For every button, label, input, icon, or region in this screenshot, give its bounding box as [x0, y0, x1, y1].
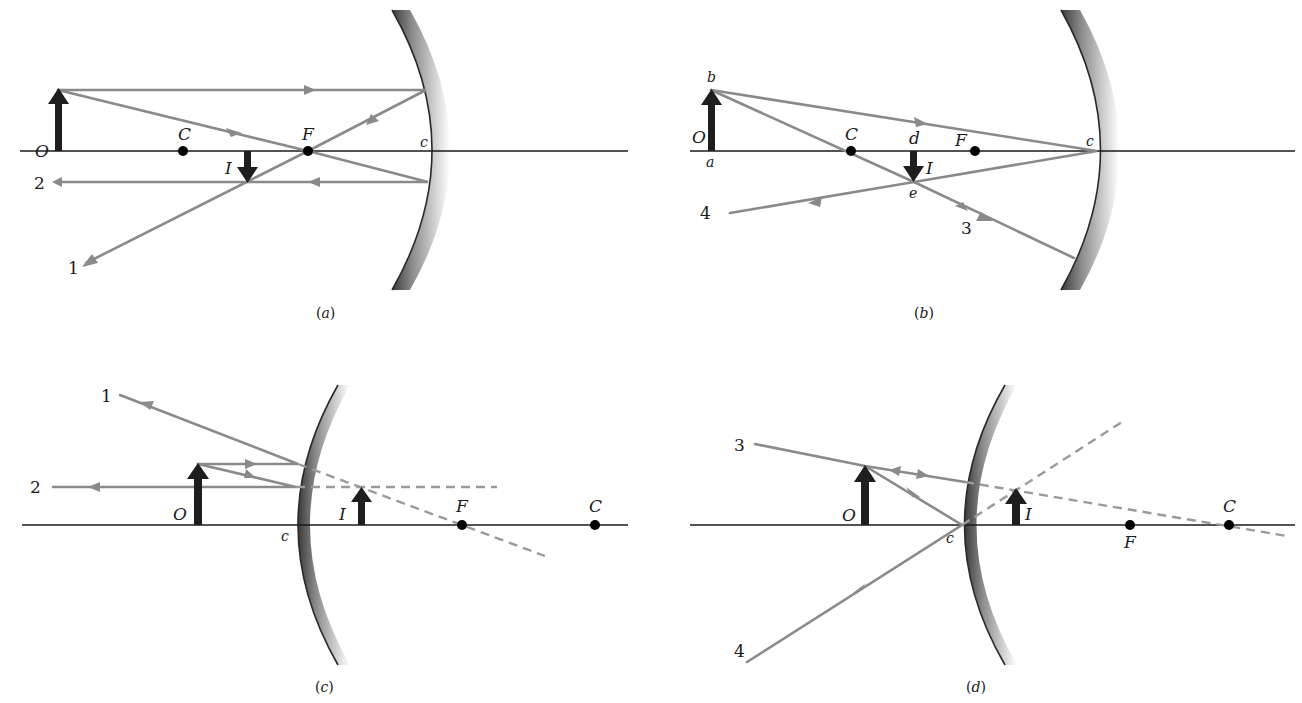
vertex-label: c [420, 134, 428, 150]
ray-label-4: 4 [700, 203, 711, 223]
ray-label-4: 4 [734, 641, 745, 661]
ray-direction-arrow [304, 85, 316, 95]
panel-caption: (b) [914, 305, 934, 321]
center-of-curvature-point [590, 520, 600, 530]
object-arrow-shaft [708, 103, 715, 151]
mirror-ray-diagram-figure: O C F c I 2 1 (a) O b a C d F c I [0, 0, 1302, 703]
image-arrow-head [237, 167, 258, 183]
panel-caption: (a) [316, 305, 335, 321]
ray-label-3: 3 [734, 435, 745, 455]
ray-direction-arrow [889, 466, 901, 476]
panel-b: O b a C d F c I e 4 3 (b) [690, 10, 1295, 321]
object-label: O [35, 141, 49, 161]
focus-label: F [455, 496, 469, 516]
ray-3 [711, 90, 1074, 258]
panel-a: O C F c I 2 1 (a) [20, 10, 628, 321]
ray-direction-arrow [82, 254, 98, 267]
ray-label-3: 3 [961, 218, 972, 238]
ray-direction-arrow [914, 117, 928, 127]
object-label: O [692, 127, 706, 147]
ray-direction-arrow [88, 482, 100, 492]
object-arrow-shaft [55, 102, 62, 151]
concave-mirror [392, 10, 450, 290]
ray-label-1: 1 [101, 386, 112, 406]
object-tip-label: b [707, 69, 716, 85]
focal-point [303, 146, 313, 156]
center-of-curvature-point [178, 146, 188, 156]
ray-4 [747, 466, 962, 662]
virtual-ray-extension [298, 464, 545, 556]
ray-direction-arrow [244, 469, 256, 478]
vertex-label: c [1086, 133, 1094, 149]
panel-c: 1 2 O c I F C (c) [22, 385, 628, 695]
center-label: C [845, 124, 858, 144]
focal-point [457, 520, 467, 530]
image-base-label: d [909, 128, 920, 148]
center-of-curvature-point [846, 146, 856, 156]
object-label: O [173, 504, 187, 524]
panel-caption: (d) [966, 679, 986, 695]
image-tip-label: e [909, 185, 917, 201]
object-arrow-shaft [861, 480, 869, 525]
image-label: I [224, 158, 232, 178]
image-arrow-shaft [1012, 502, 1020, 525]
image-arrow-head [1005, 488, 1027, 504]
focus-label: F [954, 130, 968, 150]
ray-direction-arrow [916, 469, 929, 479]
image-label: I [925, 158, 933, 178]
center-label: C [589, 496, 602, 516]
image-arrow-shaft [358, 500, 365, 525]
focus-label: F [301, 124, 315, 144]
object-base-label: a [706, 154, 714, 170]
panel-caption: (c) [315, 679, 334, 695]
ray-2 [53, 464, 296, 487]
center-of-curvature-point [1224, 520, 1234, 530]
focal-point [970, 146, 980, 156]
center-label: C [1223, 496, 1236, 516]
object-label: O [842, 505, 856, 525]
vertex-label: c [946, 530, 954, 546]
ray-label-2: 2 [34, 173, 45, 193]
ray-label-2: 2 [30, 477, 41, 497]
center-label: C [178, 124, 191, 144]
focal-point [1125, 520, 1135, 530]
ray-direction-arrow [52, 177, 62, 187]
image-label: I [338, 504, 346, 524]
object-arrow-shaft [194, 477, 202, 525]
panel-d: 3 4 O c I F C (d) [690, 385, 1295, 695]
focus-label: F [1123, 532, 1137, 552]
ray-direction-arrow [245, 459, 257, 469]
image-label: I [1024, 504, 1032, 524]
ray-label-1: 1 [68, 258, 79, 278]
ray-direction-arrow [308, 177, 320, 187]
vertex-label: c [281, 528, 289, 544]
